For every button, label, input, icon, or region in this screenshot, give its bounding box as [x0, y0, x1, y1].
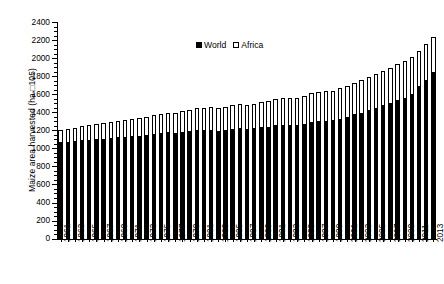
y-axis-tick-labels: 0200400600800100012001400160018002000220… [0, 0, 50, 284]
bar-1997 [316, 92, 320, 239]
bar-segment-world [374, 109, 378, 239]
bar-segment-africa [202, 108, 206, 131]
x-axis-tick [211, 239, 212, 242]
x-axis-tick [111, 239, 112, 242]
bar-segment-africa [123, 120, 127, 138]
bar-1968 [109, 122, 113, 239]
bar-segment-africa [173, 113, 177, 134]
x-axis-tick [68, 239, 69, 242]
legend-label-africa: Africa [241, 40, 263, 50]
bar-segment-africa [109, 122, 113, 139]
bar-segment-world [195, 131, 199, 239]
x-axis-tick [405, 239, 406, 242]
bar-1972 [137, 118, 141, 239]
bar-segment-africa [230, 105, 234, 130]
bar-segment-world [424, 81, 428, 239]
x-axis-tick [426, 239, 427, 242]
bar-segment-africa [101, 123, 105, 140]
bar-segment-africa [417, 51, 421, 87]
bar-segment-world [410, 95, 414, 239]
bar-1986 [238, 104, 242, 239]
legend-item-world: World [196, 40, 226, 50]
x-axis-tick [82, 239, 83, 242]
bar-segment-africa [431, 37, 435, 73]
bar-segment-africa [388, 68, 392, 104]
bar-segment-africa [273, 99, 277, 126]
x-axis-tick [168, 239, 169, 242]
bar-segment-world [187, 132, 191, 239]
x-axis-tick [398, 239, 399, 242]
bar-1984 [223, 107, 227, 239]
legend-swatch-world-icon [196, 42, 202, 48]
bar-segment-world [352, 115, 356, 239]
bar-segment-africa [367, 77, 371, 111]
x-axis-tick [383, 239, 384, 242]
bar-2000 [338, 88, 342, 239]
y-axis-tick-label: 1400 [0, 108, 50, 116]
bar-segment-world [281, 126, 285, 239]
x-axis-tick [319, 239, 320, 242]
bar-1996 [309, 93, 313, 239]
x-axis-tick [139, 239, 140, 242]
x-axis-tick [269, 239, 270, 242]
bar-segment-africa [259, 102, 263, 128]
x-axis-tick [161, 239, 162, 242]
x-axis-tick [390, 239, 391, 242]
bar-1985 [230, 105, 234, 239]
bar-segment-world [252, 129, 256, 239]
bar-segment-world [345, 118, 349, 239]
bar-segment-africa [94, 124, 98, 140]
bar-segment-world [259, 128, 263, 239]
x-axis-tick [333, 239, 334, 242]
bar-1976 [166, 113, 170, 239]
x-axis-tick [355, 239, 356, 242]
y-axis-tick-label: 200 [0, 216, 50, 224]
bar-segment-africa [137, 118, 141, 137]
bar-segment-world [388, 104, 392, 239]
bar-segment-world [288, 126, 292, 239]
x-axis-tick [412, 239, 413, 242]
bar-segment-world [331, 121, 335, 239]
x-axis-tick [276, 239, 277, 242]
bar-1979 [187, 110, 191, 239]
bar-1977 [173, 113, 177, 239]
bar-segment-world [230, 130, 234, 239]
x-axis-tick [75, 239, 76, 242]
bar-segment-world [245, 130, 249, 239]
bar-segment-africa [410, 57, 414, 95]
bar-segment-africa [288, 98, 292, 126]
bar-segment-world [209, 131, 213, 239]
legend-swatch-africa-icon [233, 42, 239, 48]
x-axis-tick [204, 239, 205, 242]
x-axis-tick [254, 239, 255, 242]
x-axis-tick [125, 239, 126, 242]
x-axis-tick [290, 239, 291, 242]
bar-1992 [281, 98, 285, 239]
x-axis-tick [312, 239, 313, 242]
x-axis-tick [247, 239, 248, 242]
y-axis-tick-label: 2000 [0, 54, 50, 62]
bar-1982 [209, 107, 213, 239]
bar-segment-africa [195, 108, 199, 131]
bar-segment-world [302, 125, 306, 239]
bar-segment-world [173, 134, 177, 239]
bar-1988 [252, 104, 256, 239]
bar-segment-africa [216, 108, 220, 132]
bar-2003 [359, 80, 363, 239]
chart-legend: World Africa [196, 40, 263, 50]
bar-segment-world [338, 120, 342, 239]
bar-1983 [216, 108, 220, 239]
x-axis-tick [240, 239, 241, 242]
x-axis-tick [182, 239, 183, 242]
bar-1989 [259, 102, 263, 239]
x-axis-tick [326, 239, 327, 242]
bar-2011 [417, 51, 421, 239]
x-axis-tick [147, 239, 148, 242]
x-axis-tick [233, 239, 234, 242]
bar-segment-world [431, 73, 435, 239]
x-axis-tick [261, 239, 262, 242]
x-axis-tick [340, 239, 341, 242]
bar-segment-africa [80, 126, 84, 141]
bar-segment-world [417, 87, 421, 239]
bar-segment-world [266, 128, 270, 239]
